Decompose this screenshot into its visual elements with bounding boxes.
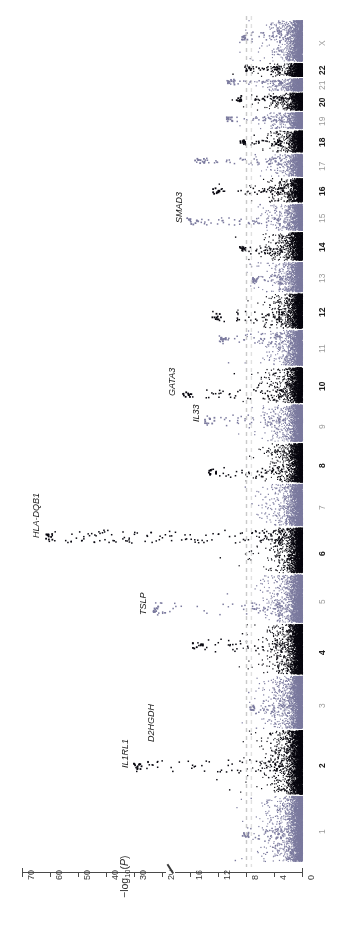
chromosome-label-14: 14 xyxy=(317,242,327,251)
axis-tick-label: 30 xyxy=(138,870,148,880)
chromosome-label-12: 12 xyxy=(317,307,327,316)
chromosome-label-3: 3 xyxy=(317,703,327,708)
chromosome-label-18: 18 xyxy=(317,138,327,147)
chromosome-label-16: 16 xyxy=(317,186,327,195)
axis-tick-label: 16 xyxy=(194,870,204,880)
chromosome-label-X: X xyxy=(317,41,327,47)
chromosome-label-15: 15 xyxy=(317,213,327,222)
chromosome-label-21: 21 xyxy=(317,81,327,90)
chromosome-label-7: 7 xyxy=(317,506,327,511)
axis-tick xyxy=(162,872,163,877)
gene-annotation-hla-dqb1: HLA-DQB1 xyxy=(31,493,41,538)
manhattan-plot-figure: 7060504030201612840 X2221201918171615141… xyxy=(0,0,340,941)
plot-area xyxy=(0,0,340,941)
chromosome-label-1: 1 xyxy=(317,830,327,835)
chromosome-label-2: 2 xyxy=(317,763,327,768)
chromosome-label-4: 4 xyxy=(317,650,327,655)
chromosome-label-20: 20 xyxy=(317,98,327,107)
axis-tick xyxy=(190,872,191,877)
chromosome-label-19: 19 xyxy=(317,117,327,126)
chromosome-label-17: 17 xyxy=(317,161,327,170)
axis-tick-label: 70 xyxy=(26,870,36,880)
axis-label: −log10(P) xyxy=(118,855,132,898)
chromosome-label-11: 11 xyxy=(317,345,327,354)
chromosome-label-5: 5 xyxy=(317,599,327,604)
axis-tick-label: 0 xyxy=(306,875,316,880)
axis-tick xyxy=(22,872,23,877)
chromosome-label-13: 13 xyxy=(317,273,327,282)
gene-annotation-gata3: GATA3 xyxy=(167,368,177,396)
gene-annotation-tslp: TSLP xyxy=(138,592,148,615)
gene-annotation-il1rl1: IL1RL1 xyxy=(120,739,130,768)
chromosome-label-10: 10 xyxy=(317,381,327,390)
chromosome-label-9: 9 xyxy=(317,424,327,429)
axis-tick-label: 4 xyxy=(278,875,288,880)
axis-tick-label: 60 xyxy=(54,870,64,880)
axis-tick xyxy=(218,872,219,877)
axis-tick xyxy=(78,872,79,877)
axis-tick xyxy=(134,872,135,877)
axis-tick xyxy=(274,872,275,877)
axis-tick xyxy=(302,872,303,877)
axis-tick-label: 8 xyxy=(250,875,260,880)
axis-tick xyxy=(106,872,107,877)
gene-annotation-il33: IL33 xyxy=(191,404,201,422)
axis-tick xyxy=(246,872,247,877)
gene-annotation-smad3: SMAD3 xyxy=(174,192,184,223)
axis-tick-label: 12 xyxy=(222,870,232,880)
chromosome-label-8: 8 xyxy=(317,464,327,469)
axis-tick xyxy=(50,872,51,877)
chromosome-label-22: 22 xyxy=(317,66,327,75)
gene-annotation-d2hgdh: D2HGDH xyxy=(146,704,156,742)
axis-tick-label: 50 xyxy=(82,870,92,880)
chromosome-label-6: 6 xyxy=(317,551,327,556)
scatter-canvas xyxy=(0,0,340,941)
